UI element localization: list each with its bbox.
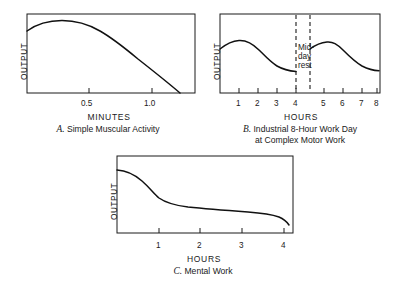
figure-a-simple-muscular-activity: 0.5 1.0 MINUTES A. Simple Muscular Activ… [8,8,208,140]
panel-letter-c: C. [173,266,182,276]
plot-frame-a [27,14,195,93]
caption-b: B. Industrial 8-Hour Work Day at Complex… [205,124,395,146]
chart-a-plot [8,8,208,100]
xaxis-title-b: HOURS [211,112,391,122]
chart-a-ticklabels-row: 0.5 1.0 [8,100,208,111]
chart-c-plot [98,150,308,242]
caption-text-b: Industrial 8-Hour Work Day [253,124,356,134]
plot-frame-c [117,156,293,233]
chart-c-frame [117,156,293,233]
xtick-label-b-7: 7 [359,99,364,108]
caption-c: C. Mental Work [98,266,308,277]
xaxis-title-a: MINUTES [14,112,204,122]
caption-a: A. Simple Muscular Activity [8,124,208,135]
panel-letter-b: B. [243,124,251,134]
xtick-label-b-4: 4 [293,99,298,108]
chart-a-frame [27,14,195,93]
caption-b-line-1: B. Industrial 8-Hour Work Day [205,124,395,135]
xtick-label-a-1: 1.0 [144,99,155,108]
chart-c-ticklabels-row: 1 2 3 4 [98,242,308,253]
yaxis-title-b: OUTPUT [213,43,222,80]
chart-b-plot: Mid- day rest [205,8,395,100]
caption-text-c: Mental Work [184,266,232,276]
yaxis-title-c: OUTPUT [110,183,119,220]
xtick-label-b-6: 6 [340,99,345,108]
xtick-label-c-4: 4 [281,241,286,250]
panel-letter-a: A. [56,124,64,134]
xtick-label-b-3: 3 [274,99,279,108]
figure-c-mental-work: 1 2 3 4 HOURS C. Mental Work OUTPUT [98,150,308,282]
xtick-label-b-1: 1 [236,99,241,108]
rest-label-line-2: day [298,52,312,61]
xtick-label-b-2: 2 [255,99,260,108]
xtick-label-a-0: 0.5 [81,99,92,108]
xtick-label-c-1: 1 [156,241,161,250]
xtick-label-c-2: 2 [197,241,202,250]
rest-label-line-3: rest [298,61,312,70]
figure-b-industrial-work-day: Mid- day rest 1 2 3 4 5 6 7 8 HOURS B. I… [205,8,395,153]
xaxis-title-c: HOURS [104,254,304,264]
xtick-label-c-3: 3 [239,241,244,250]
xtick-label-b-8: 8 [374,99,379,108]
chart-b-ticklabels-row: 1 2 3 4 5 6 7 8 [205,100,395,111]
yaxis-title-a: OUTPUT [20,43,29,80]
xtick-label-b-5: 5 [321,99,326,108]
caption-text-a: Simple Muscular Activity [67,124,160,134]
caption-b-line-2: at Complex Motor Work [205,135,395,146]
